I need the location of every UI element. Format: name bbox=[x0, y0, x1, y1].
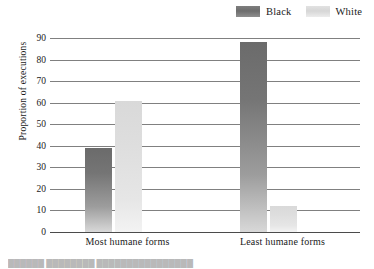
bar-white-0 bbox=[115, 101, 142, 232]
legend-swatch-black-icon bbox=[236, 6, 260, 17]
y-tick-label: 50 bbox=[37, 119, 47, 129]
figure-caption: ██████ ████████ ████████████████ bbox=[8, 259, 368, 268]
bar-black-1 bbox=[240, 42, 267, 232]
chart-legend: Black White bbox=[236, 6, 362, 17]
y-tick-label: 20 bbox=[37, 184, 47, 194]
x-category-label: Most humane forms bbox=[86, 236, 170, 248]
x-axis-category-labels: Most humane formsLeast humane forms bbox=[50, 236, 360, 250]
y-tick-label: 90 bbox=[37, 33, 47, 43]
y-tick-label: 10 bbox=[37, 205, 47, 215]
y-tick-label: 30 bbox=[37, 162, 47, 172]
x-category-label: Least humane forms bbox=[240, 236, 325, 248]
legend-entry-black: Black bbox=[236, 6, 292, 17]
legend-label-white: White bbox=[336, 6, 363, 17]
y-tick-label: 60 bbox=[37, 98, 47, 108]
y-tick-label: 0 bbox=[41, 227, 46, 237]
y-tick-label: 40 bbox=[37, 141, 47, 151]
bar-white-1 bbox=[270, 206, 297, 232]
x-axis-line bbox=[50, 232, 360, 233]
bar-chart-figure: Black White Proportion of executions 010… bbox=[0, 0, 374, 269]
legend-swatch-white-icon bbox=[306, 6, 330, 17]
bar-series-group bbox=[50, 38, 360, 232]
bar-black-0 bbox=[85, 148, 112, 232]
y-tick-label: 70 bbox=[37, 76, 47, 86]
legend-entry-white: White bbox=[306, 6, 363, 17]
legend-label-black: Black bbox=[266, 6, 292, 17]
y-tick-label: 80 bbox=[37, 55, 47, 65]
plot-area: 0102030405060708090 bbox=[50, 38, 360, 232]
y-axis-tick-labels: 0102030405060708090 bbox=[26, 38, 46, 232]
